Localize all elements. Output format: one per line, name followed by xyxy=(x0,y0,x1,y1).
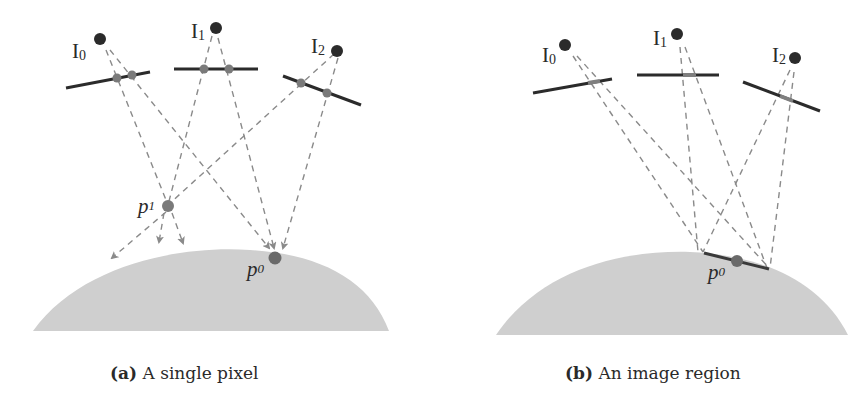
panel-a-single-pixel: I0 I1 I2 p1 p0 (a) A single pixel xyxy=(0,0,430,409)
label-i2: I2 xyxy=(311,34,325,58)
caption-a-tag: (a) xyxy=(110,363,137,383)
rays-to-p1 xyxy=(106,36,334,205)
diagram-b: I0 I1 I2 p0 xyxy=(430,0,866,409)
label-i0: I0 xyxy=(542,43,556,67)
camera-dot-i1 xyxy=(210,22,222,34)
diagram-a: I0 I1 I2 p1 p0 xyxy=(0,0,430,409)
point-p1 xyxy=(162,200,174,212)
image-plane-i0 xyxy=(66,72,150,88)
caption-b-text: An image region xyxy=(598,363,740,383)
surface xyxy=(33,249,389,331)
camera-dot-i2 xyxy=(789,52,801,64)
rays-from-p1 xyxy=(112,212,183,258)
label-i1: I1 xyxy=(191,19,205,43)
caption-b: (b) An image region xyxy=(565,363,741,383)
camera-dot-i1 xyxy=(671,28,683,40)
panel-b-image-region: I0 I1 I2 p0 (b) An image region xyxy=(430,0,866,409)
label-p1: p1 xyxy=(136,194,155,218)
label-i1: I1 xyxy=(653,26,667,50)
caption-a-text: A single pixel xyxy=(143,363,259,383)
camera-dot-i0 xyxy=(559,39,571,51)
image-plane-i2 xyxy=(283,76,361,105)
point-p0 xyxy=(731,255,743,267)
surface xyxy=(496,252,848,335)
caption-a: (a) A single pixel xyxy=(110,363,259,383)
point-p0 xyxy=(269,252,282,265)
label-i0: I0 xyxy=(72,39,86,63)
caption-b-tag: (b) xyxy=(565,363,593,383)
camera-dot-i2 xyxy=(331,45,343,57)
image-plane-i0 xyxy=(533,79,612,93)
label-i2: I2 xyxy=(772,43,786,67)
camera-dot-i0 xyxy=(94,33,106,45)
